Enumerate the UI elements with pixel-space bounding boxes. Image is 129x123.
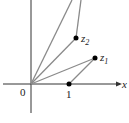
point-one <box>67 82 72 87</box>
point-z2 <box>74 36 79 41</box>
segment-origin-z1 <box>31 58 95 84</box>
segment-origin-z2 <box>31 38 76 84</box>
origin-label: 0 <box>20 86 26 98</box>
x-axis-label: x <box>121 78 127 90</box>
z1-label: z1 <box>99 51 108 66</box>
complex-plane-diagram: 0 1 x z1 z2 <box>0 0 129 123</box>
segment-one-z1 <box>69 58 95 84</box>
point-z1 <box>93 56 98 61</box>
one-label: 1 <box>66 88 72 100</box>
z2-label: z2 <box>80 32 89 47</box>
segment-origin-top <box>31 0 72 84</box>
